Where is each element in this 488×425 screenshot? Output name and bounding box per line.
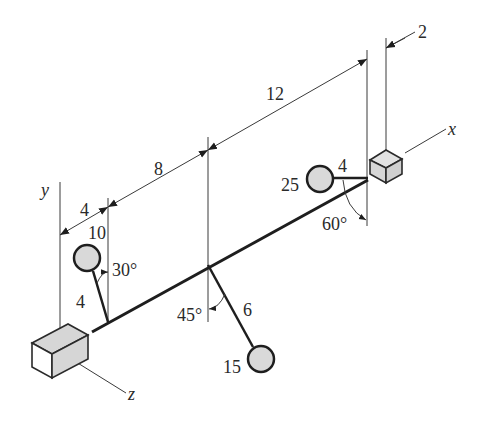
mass-25-label: 25 (281, 175, 299, 195)
right-bearing-cube (370, 150, 402, 183)
dim-line-2-arrow (386, 38, 405, 48)
reference-lines (60, 38, 386, 352)
x-axis-label: x (447, 119, 456, 139)
mass-15-arm-label: 6 (243, 300, 252, 320)
angle-arc-30 (97, 272, 108, 283)
mass-10-angle-label: 30° (112, 260, 137, 280)
dim-label-2: 2 (418, 22, 427, 42)
shaft (92, 180, 368, 332)
z-axis-label: z (127, 384, 135, 404)
dim-label-12: 12 (266, 84, 284, 104)
shaft-diagram: y x z 4 8 12 2 10 4 30° 25 4 60° 15 6 45… (0, 0, 488, 425)
mass-15-disk (248, 346, 274, 372)
y-axis-label: y (39, 180, 49, 200)
labels: y x z 4 8 12 2 10 4 30° 25 4 60° 15 6 45… (39, 22, 456, 404)
x-axis-line (405, 129, 446, 153)
mass-25-angle-label: 60° (322, 214, 347, 234)
dim-line-12 (208, 59, 367, 150)
left-bearing-block (32, 324, 88, 378)
angle-arc-45 (209, 294, 225, 309)
mass-15-assembly (208, 265, 274, 372)
mass-10-disk (74, 245, 100, 271)
mass-15-angle-label: 45° (177, 305, 202, 325)
dim-label-8: 8 (154, 159, 163, 179)
mass-10-label: 10 (88, 223, 106, 243)
dim-label-4: 4 (80, 200, 89, 220)
mass-10-arm (93, 271, 108, 322)
mass-25-arm-label: 4 (338, 156, 347, 176)
mass-25-disk (307, 166, 333, 192)
mass-10-arm-label: 4 (76, 292, 85, 312)
mass-15-label: 15 (223, 357, 241, 377)
dimension-lines (60, 32, 415, 235)
